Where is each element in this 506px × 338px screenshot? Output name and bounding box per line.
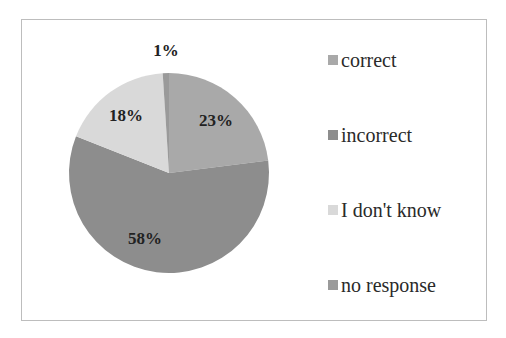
legend-item-no-response: no response	[328, 274, 436, 296]
legend-swatch	[328, 55, 338, 65]
legend-item-incorrect: incorrect	[328, 124, 412, 146]
label-dont-know: 18%	[109, 106, 143, 126]
legend-item-dont-know: I don't know	[328, 199, 441, 221]
label-incorrect: 58%	[128, 229, 162, 249]
legend-swatch	[328, 205, 338, 215]
label-no-response: 1%	[153, 41, 179, 61]
label-correct: 23%	[199, 111, 233, 131]
legend-label: no response	[341, 274, 436, 297]
legend-item-correct: correct	[328, 49, 397, 71]
legend-label: incorrect	[341, 124, 412, 147]
legend-label: I don't know	[341, 199, 441, 222]
legend-label: correct	[341, 49, 397, 72]
legend-swatch	[328, 130, 338, 140]
legend-swatch	[328, 280, 338, 290]
